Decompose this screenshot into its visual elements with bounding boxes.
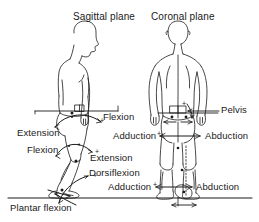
knee-flexion-label: Flexion xyxy=(27,145,58,155)
joint-markers-left xyxy=(61,112,78,192)
pelvis-marker-right xyxy=(170,106,186,113)
ankle-dorsiflexion-plantarflexion-arrow xyxy=(48,176,88,205)
hip-flexion-label: Flexion xyxy=(103,112,134,122)
pelvis-plus-sign: + xyxy=(182,100,186,107)
hip-adduction-plus-sign: + xyxy=(157,130,161,137)
pelvis-tilt-arrows xyxy=(164,104,194,124)
pelvis-leader-line xyxy=(188,109,219,113)
hip-flexion-plus-sign: + xyxy=(100,117,104,124)
pelvis-label: Pelvis xyxy=(221,105,247,115)
hip-extension-label: Extension xyxy=(17,128,60,138)
dorsiflexion-plus-sign: + xyxy=(93,172,97,179)
hip-abduction-label: Abduction xyxy=(205,131,248,141)
plantar-flexion-label: Plantar flexion xyxy=(10,203,72,213)
sagittal-plane-title: Sagittal plane xyxy=(73,12,135,22)
coronal-plane-title: Coronal plane xyxy=(151,12,215,22)
foot-abduction-label: Abduction xyxy=(196,182,239,192)
hip-flexion-extension-arrow xyxy=(55,115,101,130)
hip-adduction-label: Adduction xyxy=(113,131,156,141)
knee-flexion-extension-arrow xyxy=(56,144,92,158)
anatomical-planes-diagram: Sagittal plane Coronal plane Flexion Ext… xyxy=(0,0,259,222)
foot-adduction-plus-sign: + xyxy=(153,181,157,188)
pelvis-marker-left xyxy=(75,105,84,112)
knee-extension-plus-sign: + xyxy=(95,148,99,155)
foot-adduction-label: Adduction xyxy=(108,182,151,192)
